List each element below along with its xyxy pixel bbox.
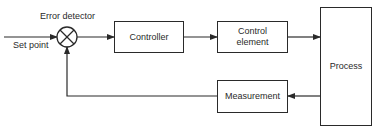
- control-element-label-line2: element: [236, 37, 268, 48]
- control-element-label-line1: Control: [238, 26, 267, 37]
- controller-label: Controller: [129, 32, 168, 43]
- feedback-arrow: [67, 47, 217, 96]
- process-block: Process: [320, 7, 372, 126]
- measurement-label: Measurement: [225, 91, 280, 102]
- measurement-block: Measurement: [217, 80, 288, 113]
- error-detector-icon: [57, 27, 77, 47]
- process-label: Process: [330, 61, 363, 72]
- controller-block: Controller: [114, 21, 184, 53]
- control-element-block: Control element: [217, 21, 288, 53]
- set-point-label: Set point: [13, 40, 49, 50]
- error-detector-label: Error detector: [40, 11, 95, 21]
